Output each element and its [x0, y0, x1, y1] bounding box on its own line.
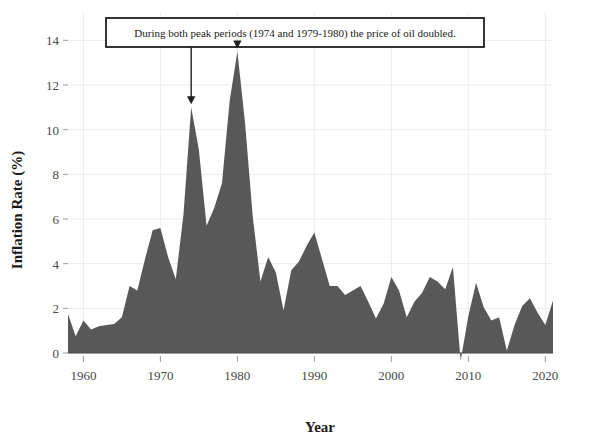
x-tick-label: 1970: [147, 368, 173, 383]
y-tick-label: 12: [46, 78, 59, 93]
y-tick-label: 0: [53, 346, 60, 361]
inflation-rate-area-chart: 1960197019801990200020102020 02468101214…: [0, 0, 591, 446]
y-tick-label: 14: [46, 33, 60, 48]
x-tick-label: 2020: [532, 368, 558, 383]
y-axis-title: Inflation Rate (%): [9, 151, 26, 269]
chart-canvas: 1960197019801990200020102020 02468101214…: [0, 0, 591, 446]
x-tick-label: 1990: [301, 368, 327, 383]
x-tick-label: 1980: [224, 368, 250, 383]
x-tick-label: 2010: [455, 368, 481, 383]
annotation-text: During both peak periods (1974 and 1979-…: [134, 27, 456, 40]
x-tick-label: 2000: [378, 368, 404, 383]
x-axis-title: Year: [305, 419, 335, 435]
x-tick-label: 1960: [70, 368, 96, 383]
y-tick-label: 8: [53, 167, 60, 182]
y-tick-label: 2: [53, 301, 60, 316]
y-tick-label: 4: [53, 257, 60, 272]
y-tick-label: 6: [53, 212, 60, 227]
y-tick-label: 10: [46, 123, 59, 138]
